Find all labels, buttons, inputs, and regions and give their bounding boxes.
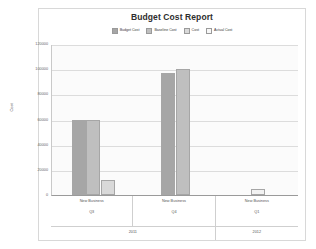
legend-swatch-icon bbox=[206, 28, 212, 34]
bar bbox=[86, 120, 100, 196]
category-axis: New BusinessQ3New BusinessQ4New Business… bbox=[51, 196, 298, 241]
y-axis-ticks: 020000400006000080000100000120000 bbox=[20, 45, 48, 196]
y-axis-title: Cost bbox=[9, 103, 14, 111]
quarter-label: Q3 bbox=[51, 211, 132, 215]
legend-label: Actual Cost bbox=[214, 29, 232, 33]
legend-label: Cost bbox=[192, 29, 199, 33]
y-axis-tick-label: 40000 bbox=[22, 144, 48, 148]
category-cell: New BusinessQ4 bbox=[133, 196, 215, 226]
quarter-label: Q4 bbox=[133, 211, 214, 215]
category-label: New Business bbox=[216, 200, 298, 204]
y-axis-tick-label: 80000 bbox=[22, 93, 48, 97]
legend-item: Cost bbox=[184, 28, 199, 34]
bar bbox=[161, 73, 175, 195]
y-axis-tick-label: 20000 bbox=[22, 169, 48, 173]
legend-item: Baseline Cost bbox=[146, 28, 176, 34]
category-label: New Business bbox=[51, 200, 132, 204]
quarter-label: Q1 bbox=[216, 211, 298, 215]
y-axis-tick-label: 0 bbox=[22, 194, 48, 198]
year-cell: 2011 bbox=[51, 226, 216, 240]
y-axis-tick-label: 60000 bbox=[22, 119, 48, 123]
y-axis-tick-label: 120000 bbox=[22, 43, 48, 47]
bar bbox=[251, 189, 265, 195]
year-label: 2012 bbox=[216, 231, 298, 235]
year-label: 2011 bbox=[51, 231, 215, 235]
category-cell: New BusinessQ1 bbox=[216, 196, 298, 226]
year-cell: 2012 bbox=[216, 226, 298, 240]
bar bbox=[176, 69, 190, 195]
legend-item: Budget Cost bbox=[112, 28, 140, 34]
legend-label: Baseline Cost bbox=[154, 29, 176, 33]
gridline bbox=[52, 45, 298, 46]
category-label: New Business bbox=[133, 200, 214, 204]
chart-legend: Budget CostBaseline CostCostActual Cost bbox=[38, 28, 306, 34]
category-cell: New BusinessQ3 bbox=[51, 196, 133, 226]
legend-swatch-icon bbox=[112, 28, 118, 34]
bar bbox=[72, 120, 86, 196]
chart-title: Budget Cost Report bbox=[38, 12, 306, 22]
y-axis-tick-label: 100000 bbox=[22, 68, 48, 72]
legend-swatch-icon bbox=[146, 28, 152, 34]
bar bbox=[101, 180, 115, 195]
legend-item: Actual Cost bbox=[206, 28, 232, 34]
legend-label: Budget Cost bbox=[120, 29, 140, 33]
plot-area bbox=[51, 45, 298, 196]
legend-swatch-icon bbox=[184, 28, 190, 34]
